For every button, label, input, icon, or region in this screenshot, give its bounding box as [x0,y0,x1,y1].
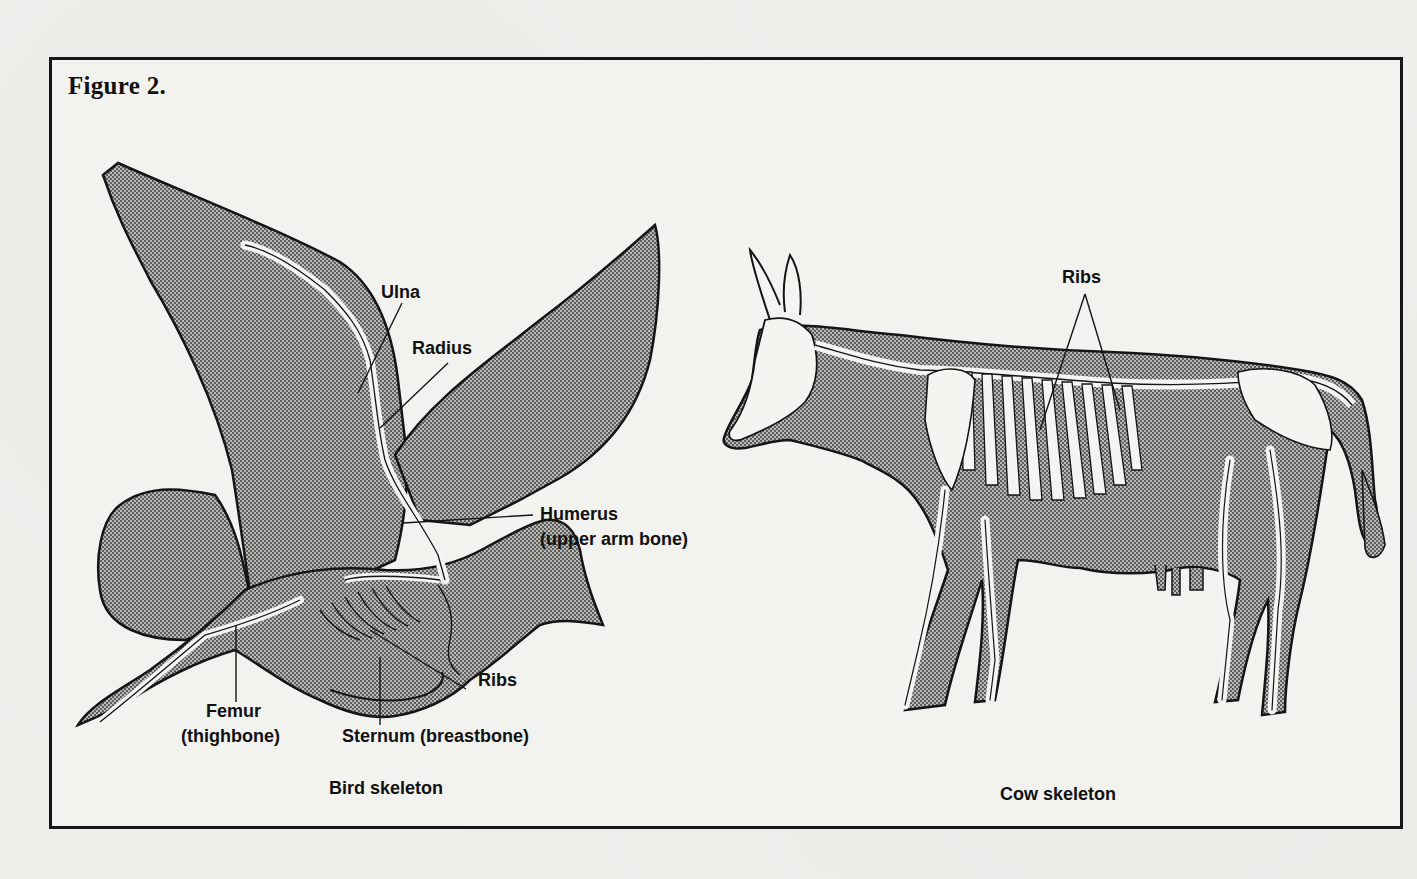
label-sternum: Sternum (breastbone) [342,725,529,747]
cow-illustration [724,250,1385,715]
caption-bird-skeleton: Bird skeleton [329,778,443,799]
bird-illustration [78,163,659,725]
label-cow-ribs: Ribs [1062,266,1101,288]
label-humerus: Humerus [540,503,618,525]
label-humerus-note: (upper arm bone) [540,528,688,550]
label-ulna: Ulna [381,281,420,303]
label-radius: Radius [412,337,472,359]
label-femur: Femur [206,700,261,722]
label-bird-ribs: Ribs [478,669,517,691]
caption-cow-skeleton: Cow skeleton [1000,784,1116,805]
cow-horns [750,250,801,320]
label-femur-note: (thighbone) [181,725,280,747]
figure-illustrations [0,0,1417,879]
cow-udder [1155,565,1203,595]
